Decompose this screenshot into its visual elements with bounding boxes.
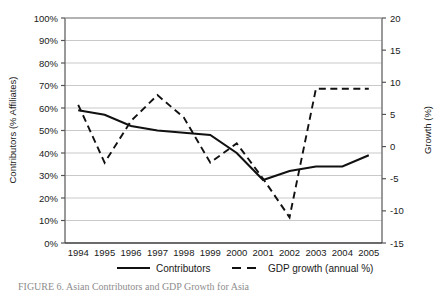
svg-text:90%: 90%	[39, 35, 59, 46]
svg-text:100%: 100%	[34, 13, 59, 24]
svg-text:1997: 1997	[147, 247, 168, 258]
series-line-contributors	[78, 110, 369, 180]
svg-text:1996: 1996	[120, 247, 141, 258]
svg-text:70%: 70%	[39, 80, 59, 91]
svg-text:50%: 50%	[39, 125, 59, 136]
svg-text:1999: 1999	[200, 247, 221, 258]
svg-text:2000: 2000	[226, 247, 247, 258]
svg-text:1998: 1998	[173, 247, 194, 258]
svg-text:0: 0	[390, 141, 395, 152]
svg-text:2004: 2004	[332, 247, 353, 258]
svg-text:30%: 30%	[39, 170, 59, 181]
svg-text:10: 10	[390, 77, 401, 88]
svg-text:60%: 60%	[39, 103, 59, 114]
right-axis-title: Growth (%)	[422, 106, 433, 154]
gridlines	[65, 41, 382, 221]
left-axis-title: Contributors (% Affiliates)	[7, 76, 18, 183]
svg-text:-5: -5	[390, 173, 398, 184]
svg-text:-15: -15	[390, 238, 404, 249]
svg-text:20: 20	[390, 13, 401, 24]
svg-text:-10: -10	[390, 205, 404, 216]
svg-text:2001: 2001	[253, 247, 274, 258]
svg-text:2005: 2005	[358, 247, 379, 258]
svg-text:1995: 1995	[94, 247, 115, 258]
legend-label-gdp-growth: GDP growth (annual %)	[268, 263, 373, 274]
x-axis-tick-labels: 1994199519961997199819992000200120022003…	[68, 247, 380, 258]
chart-legend: Contributors GDP growth (annual %)	[117, 263, 373, 274]
svg-text:5: 5	[390, 109, 395, 120]
line-chart: 0%10%20%30%40%50%60%70%80%90%100% -15-10…	[0, 0, 442, 293]
svg-text:20%: 20%	[39, 193, 59, 204]
svg-text:2003: 2003	[305, 247, 326, 258]
svg-text:80%: 80%	[39, 58, 59, 69]
svg-text:10%: 10%	[39, 215, 59, 226]
right-axis-tick-labels: -15-10-505101520	[390, 13, 404, 249]
left-axis-tick-labels: 0%10%20%30%40%50%60%70%80%90%100%	[34, 13, 59, 249]
legend-label-contributors: Contributors	[156, 263, 210, 274]
svg-text:40%: 40%	[39, 148, 59, 159]
svg-text:0%: 0%	[44, 238, 58, 249]
svg-text:15: 15	[390, 45, 401, 56]
figure-container: 0%10%20%30%40%50%60%70%80%90%100% -15-10…	[0, 0, 442, 293]
figure-caption: FIGURE 6. Asian Contributors and GDP Gro…	[18, 281, 428, 293]
svg-text:1994: 1994	[68, 247, 89, 258]
svg-text:2002: 2002	[279, 247, 300, 258]
